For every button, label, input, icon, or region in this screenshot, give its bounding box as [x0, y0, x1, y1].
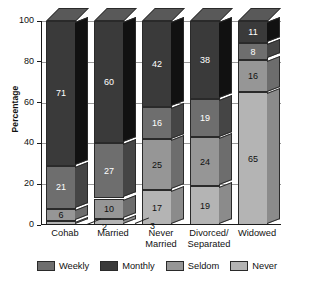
y-tick-label: 40	[24, 137, 34, 147]
legend-label: Never	[252, 261, 277, 271]
chart-legend: WeeklyMonthlySeldomNever	[0, 258, 314, 274]
legend-swatch	[166, 261, 184, 271]
legend-label: Monthly	[122, 261, 155, 271]
y-tick-label: 20	[24, 178, 34, 188]
y-tick-label: 100	[19, 15, 34, 25]
legend-swatch	[100, 261, 118, 271]
plot-area: 6217110276017251642192419386516811 02040…	[41, 21, 281, 225]
y-tick-mark	[37, 225, 41, 226]
axis-frame	[41, 21, 281, 225]
y-tick-mark	[37, 143, 41, 144]
x-axis-label-line: Widowed	[226, 228, 288, 239]
y-tick-mark	[37, 61, 41, 62]
legend-item[interactable]: Monthly	[100, 261, 155, 271]
legend-item[interactable]: Never	[230, 261, 277, 271]
legend-label: Weekly	[59, 261, 89, 271]
legend-swatch	[230, 261, 248, 271]
y-tick-label: 60	[24, 97, 34, 107]
y-axis-title: Percentage	[10, 74, 20, 144]
x-axis-label-line: Separated	[178, 239, 240, 250]
y-tick-label: 80	[24, 56, 34, 66]
y-tick-mark	[37, 184, 41, 185]
legend-item[interactable]: Weekly	[37, 261, 89, 271]
legend-swatch	[37, 261, 55, 271]
legend-label: Seldom	[188, 261, 220, 271]
y-tick-mark	[37, 102, 41, 103]
x-axis-label: Widowed	[226, 228, 288, 239]
legend-item[interactable]: Seldom	[166, 261, 220, 271]
y-tick-mark	[37, 21, 41, 22]
x-axis-labels: CohabMarriedNeverMarriedDivorced/Separat…	[41, 228, 299, 256]
stacked-bar-chart: Percentage 62171102760172516421924193865…	[0, 0, 314, 289]
